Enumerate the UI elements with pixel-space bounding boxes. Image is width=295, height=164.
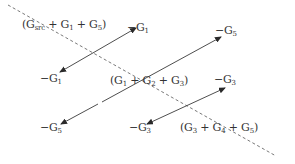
diagonal-term-node2: (G1 + G2 + G3) [110, 75, 188, 87]
arrow-g1 [60, 28, 136, 72]
off-diagonal-g3-bottom: −G3 [129, 122, 151, 134]
arrow-g5-upper-segment [102, 37, 221, 102]
off-diagonal-g5-left: −G5 [40, 122, 62, 134]
diagonal-term-src: (Gsrc + G1 + G5) [22, 19, 106, 31]
off-diagonal-g1-top: −G1 [127, 22, 149, 34]
off-diagonal-g1-left: −G1 [40, 73, 62, 85]
off-diagonal-g5-top: −G5 [215, 25, 237, 37]
diagonal-term-node3: (G3 + G4 + G5) [180, 122, 258, 134]
arrow-g5-lower-segment [61, 104, 98, 124]
arrow-g3 [147, 88, 225, 124]
off-diagonal-g3-right: −G3 [214, 74, 236, 86]
